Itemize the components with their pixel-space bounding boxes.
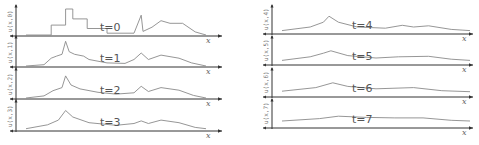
panel-t3: u(x,3)xt=3 (6, 99, 222, 140)
y-axis-label: u(x,7) (262, 102, 269, 124)
x-axis-left-arrow-icon (10, 35, 13, 38)
y-axis-arrow-icon (271, 4, 274, 8)
time-label: t=3 (100, 116, 121, 129)
x-axis-arrow-icon (218, 34, 222, 38)
y-axis-label: u(x,6) (262, 71, 269, 93)
y-axis-arrow-icon (271, 67, 274, 71)
y-axis-arrow-icon (15, 67, 18, 71)
x-axis-arrow-icon (469, 126, 473, 130)
panel-t2: u(x,2)xt=2 (6, 67, 222, 108)
x-axis-arrow-icon (469, 95, 473, 99)
x-axis-arrow-icon (218, 129, 222, 133)
x-axis-label: x (462, 97, 467, 106)
panel-t4: u(x,4)xt=4 (262, 4, 473, 43)
y-axis-label: u(x,1) (6, 41, 13, 63)
y-axis-label: u(x,0) (6, 10, 13, 32)
panel-t5: u(x,5)xt=5 (262, 35, 473, 74)
time-label: t=0 (100, 21, 121, 34)
u-curve (282, 83, 470, 92)
x-axis-label: x (462, 34, 467, 43)
x-axis-left-arrow-icon (263, 33, 266, 36)
time-label: t=1 (100, 52, 121, 65)
y-axis-label: u(x,4) (262, 8, 269, 30)
x-axis-arrow-icon (469, 63, 473, 67)
panel-t6: u(x,6)xt=6 (262, 67, 473, 106)
panel-t1: u(x,1)xt=1 (6, 35, 222, 76)
x-axis-label: x (206, 67, 211, 76)
y-axis-arrow-icon (271, 35, 274, 39)
time-label: t=5 (352, 50, 373, 63)
x-axis-left-arrow-icon (263, 64, 266, 67)
x-axis-label: x (206, 131, 211, 140)
x-axis-arrow-icon (218, 65, 222, 69)
y-axis-arrow-icon (15, 99, 18, 103)
x-axis-arrow-icon (469, 32, 473, 36)
y-axis-label: u(x,3) (6, 105, 13, 127)
x-axis-label: x (462, 128, 467, 137)
x-axis-label: x (462, 65, 467, 74)
y-axis-arrow-icon (271, 98, 274, 102)
x-axis-arrow-icon (218, 97, 222, 101)
u-curve (282, 16, 470, 30)
time-label: t=4 (352, 19, 373, 32)
u-curve (282, 116, 470, 121)
y-axis-label: u(x,5) (262, 39, 269, 61)
panel-t7: u(x,7)xt=7 (262, 98, 473, 137)
x-axis-left-arrow-icon (263, 96, 266, 99)
time-label: t=6 (352, 82, 373, 95)
x-axis-left-arrow-icon (10, 98, 13, 101)
y-axis-label: u(x,2) (6, 73, 13, 95)
x-axis-left-arrow-icon (10, 130, 13, 133)
y-axis-arrow-icon (15, 4, 18, 8)
time-label: t=2 (100, 84, 121, 97)
x-axis-label: x (206, 99, 211, 108)
x-axis-label: x (206, 36, 211, 45)
figure: u(x,0)xt=0u(x,1)xt=1u(x,2)xt=2u(x,3)xt=3… (0, 0, 479, 145)
panel-t0: u(x,0)xt=0 (6, 4, 222, 45)
x-axis-left-arrow-icon (10, 66, 13, 69)
x-axis-left-arrow-icon (263, 127, 266, 130)
time-label: t=7 (352, 113, 373, 126)
u-curve (282, 51, 470, 61)
